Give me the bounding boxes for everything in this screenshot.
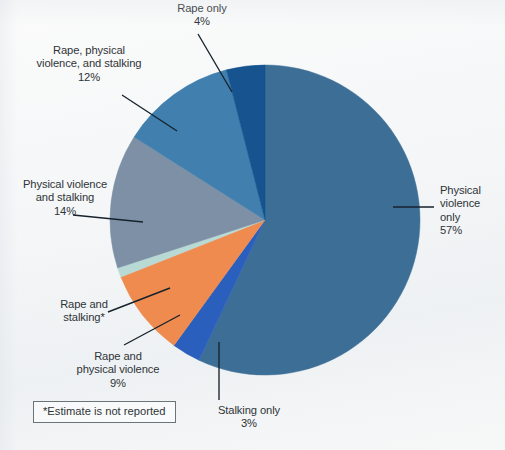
slice-label-rape-only: Rape only 4% [144, 2, 260, 29]
slice-label-rape-pv-stalking-line1: Rape, physical [53, 44, 125, 56]
slice-label-rape-stalking-line2: stalking* [24, 311, 144, 324]
slice-label-rape-only-pct: 4% [144, 15, 260, 28]
slice-label-pv-only-line3: only [440, 211, 502, 224]
footnote-text: *Estimate is not reported [43, 405, 166, 417]
slice-label-pv-stalking-line1: Physical violence [23, 178, 107, 190]
pie-slices [110, 65, 420, 375]
slice-label-rape-pv: Rape and physical violence 9% [44, 350, 192, 390]
slice-label-rape-only-name: Rape only [177, 2, 226, 14]
slice-label-pv-only: Physical violence only 57% [440, 184, 502, 238]
slice-label-rape-stalking-line1: Rape and [60, 298, 108, 310]
slice-label-pv-only-pct: 57% [440, 224, 502, 237]
slice-label-rape-stalking: Rape and stalking* [24, 298, 144, 325]
slice-label-rape-pv-line1: Rape and [94, 350, 142, 362]
pie-chart: Rape only 4% Rape, physical violence, an… [0, 0, 505, 432]
slice-label-rape-pv-stalking-line2: violence, and stalking [8, 57, 170, 70]
slice-label-rape-pv-stalking-pct: 12% [8, 71, 170, 84]
figure-page: Rape only 4% Rape, physical violence, an… [0, 0, 505, 450]
figure-caption-bar: FIGURE 9-11 Overlap of Lifetime Intimate… [0, 432, 505, 450]
slice-label-pv-stalking-pct: 14% [0, 205, 130, 218]
slice-label-pv-only-line1: Physical [440, 184, 481, 196]
slice-label-stalking-only-pct: 3% [186, 417, 312, 430]
slice-label-stalking-only-name: Stalking only [218, 404, 280, 416]
slice-label-pv-only-line2: violence [440, 197, 502, 210]
slice-label-rape-pv-pct: 9% [44, 377, 192, 390]
slice-label-stalking-only: Stalking only 3% [186, 404, 312, 431]
slice-label-pv-stalking: Physical violence and stalking 14% [0, 178, 130, 218]
slice-label-pv-stalking-line2: and stalking [0, 191, 130, 204]
footnote-box: *Estimate is not reported [33, 401, 176, 423]
slice-label-rape-pv-line2: physical violence [44, 363, 192, 376]
slice-label-rape-pv-stalking: Rape, physical violence, and stalking 12… [8, 44, 170, 84]
